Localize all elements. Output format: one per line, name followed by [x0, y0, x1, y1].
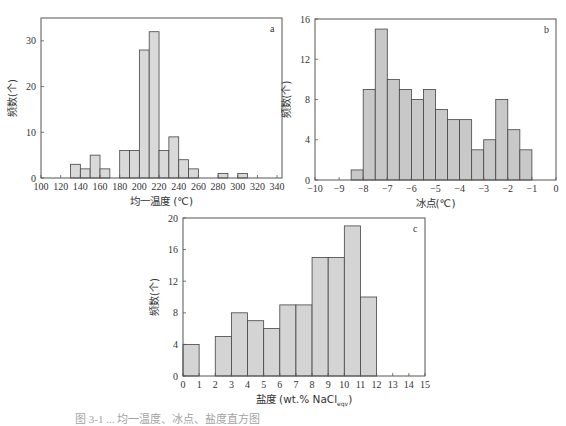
histogram-bar	[183, 344, 199, 376]
histogram-bar	[344, 226, 360, 376]
x-tick-label: 4	[245, 379, 250, 390]
y-tick-label: 0	[173, 371, 178, 382]
x-tick-label: 8	[310, 379, 315, 390]
x-tick-label: 12	[372, 379, 382, 390]
histogram-bar	[328, 258, 344, 377]
histogram-bar	[264, 329, 280, 376]
x-tick-label: 11	[356, 379, 366, 390]
histogram-bar	[312, 258, 328, 377]
y-axis-label: 频数(个)	[148, 278, 160, 316]
histogram-bar	[280, 305, 296, 376]
x-tick-label: 1	[197, 379, 202, 390]
figure-caption: 图 3-1 ... 均一温度、冰点、盐度直方图	[75, 410, 260, 426]
y-tick-label: 20	[168, 213, 178, 224]
x-tick-label: 10	[339, 379, 349, 390]
y-tick-label: 8	[173, 307, 178, 318]
histogram-bar	[248, 321, 264, 376]
y-tick-label: 12	[168, 276, 178, 287]
panel-label: c	[413, 223, 418, 234]
x-tick-label: 14	[404, 379, 414, 390]
histogram-bar	[360, 297, 376, 376]
x-tick-label: 2	[213, 379, 218, 390]
x-tick-label: 7	[293, 379, 298, 390]
x-tick-label: 13	[388, 379, 398, 390]
y-tick-label: 4	[173, 339, 178, 350]
histogram-bar	[231, 313, 247, 376]
bars	[183, 226, 377, 376]
x-tick-label: 5	[261, 379, 266, 390]
x-axis-label: 盐度 (wt.% NaCleqv)	[256, 393, 353, 408]
x-tick-label: 6	[277, 379, 282, 390]
y-tick-label: 16	[168, 244, 178, 255]
x-tick-label: 0	[181, 379, 186, 390]
histogram-bar	[296, 305, 312, 376]
x-tick-label: 3	[229, 379, 234, 390]
x-tick-label: 9	[326, 379, 331, 390]
x-tick-label: 15	[420, 379, 430, 390]
histogram-salinity: 0123456789101112131415048121620c盐度 (wt.%…	[0, 0, 566, 410]
histogram-bar	[215, 337, 231, 377]
